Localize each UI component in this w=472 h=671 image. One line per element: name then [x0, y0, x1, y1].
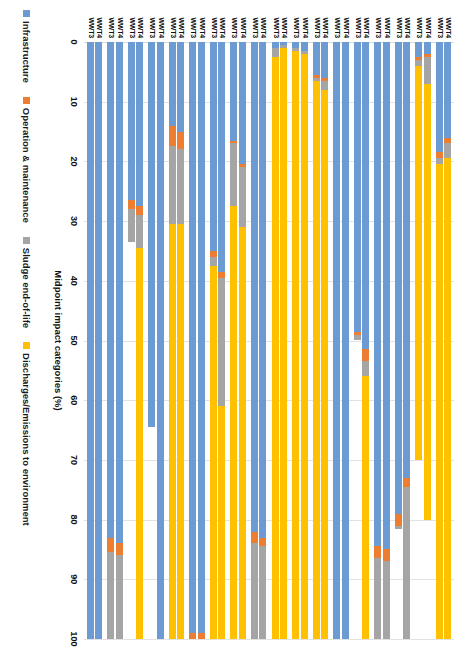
series-tick-label: WWT4: [363, 4, 370, 38]
bar-segment: [280, 48, 287, 639]
bar-segment: [251, 543, 258, 639]
series-tick-label: WWT3: [170, 4, 177, 38]
series-tick-label: WWT3: [314, 4, 321, 38]
series-tick-label: WWT4: [322, 4, 329, 38]
value-tick-label: 100: [69, 631, 79, 646]
stacked-bar: [218, 42, 225, 639]
bar-segment: [424, 57, 431, 84]
legend-item-label: Infrastructure: [21, 21, 32, 83]
bar-segment: [198, 42, 205, 633]
bar-segment: [383, 42, 390, 549]
bar-segment: [342, 42, 349, 639]
bar-segment: [239, 227, 246, 639]
bar-segment: [239, 42, 246, 164]
stacked-bar: [321, 42, 328, 639]
bar-segment: [259, 546, 266, 639]
plot-area: [84, 42, 454, 639]
stacked-bar: [395, 42, 402, 639]
stacked-bar: [403, 42, 410, 639]
series-tick-label: WWT4: [343, 4, 350, 38]
value-tick-label: 90: [69, 574, 79, 584]
series-tick-label: WWT4: [445, 4, 452, 38]
bar-segment: [177, 132, 184, 150]
series-tick-label: WWT4: [117, 4, 124, 38]
bar-segment: [198, 633, 205, 639]
value-tick-label: 70: [69, 455, 79, 465]
stacked-bar: [128, 42, 135, 639]
bar-segment: [169, 146, 176, 224]
chart-legend: InfrastructureOperation & maintenanceSlu…: [21, 10, 32, 526]
stacked-bar: [280, 42, 287, 639]
bar-segment: [374, 546, 381, 558]
series-tick-label: WWT4: [302, 4, 309, 38]
square-swatch: [23, 97, 30, 104]
stacked-bar: [148, 42, 155, 639]
series-tick-label: WWT3: [293, 4, 300, 38]
bar-segment: [95, 42, 102, 639]
legend-item: Sludge end-of-life: [21, 237, 32, 328]
series-tick-label: WWT4: [158, 4, 165, 38]
bar-segment: [116, 555, 123, 639]
stacked-bar: [107, 42, 114, 639]
stacked-bar: [87, 42, 94, 639]
bar-segment: [189, 42, 196, 633]
legend-item: Operation & maintenance: [21, 97, 32, 223]
chart-figure: InfrastructureOperation & maintenanceSlu…: [0, 0, 472, 671]
bar-segment: [362, 42, 369, 349]
legend-item-label: Discharges/Emissions to environment: [21, 353, 32, 526]
bar-segment: [374, 558, 381, 639]
bar-segment: [136, 215, 143, 248]
value-tick-label: 10: [69, 97, 79, 107]
value-tick-label: 40: [69, 276, 79, 286]
series-tick-label: WWT3: [190, 4, 197, 38]
bar-segment: [251, 42, 258, 532]
bar-segment: [230, 42, 237, 141]
bar-segment: [107, 538, 114, 553]
stacked-bar: [198, 42, 205, 639]
stacked-bar: [444, 42, 451, 639]
bar-segment: [177, 149, 184, 224]
series-tick-label: WWT4: [96, 4, 103, 38]
bar-segment: [395, 526, 402, 529]
stacked-bar: [230, 42, 237, 639]
bar-segment: [383, 561, 390, 639]
series-tick-label: WWT3: [231, 4, 238, 38]
bar-segment: [362, 361, 369, 376]
stacked-bar: [424, 42, 431, 639]
bar-segment: [230, 143, 237, 206]
bar-segment: [403, 487, 410, 639]
bar-segment: [436, 42, 443, 152]
bar-segment: [136, 42, 143, 206]
stacked-bar: [313, 42, 320, 639]
bar-segment: [210, 257, 217, 266]
bar-segment: [321, 42, 328, 78]
stacked-bar: [157, 42, 164, 639]
bar-segment: [321, 90, 328, 639]
series-tick-label: WWT3: [108, 4, 115, 38]
bar-segment: [259, 42, 266, 538]
bar-segment: [116, 543, 123, 555]
stacked-bar: [210, 42, 217, 639]
legend-item: Discharges/Emissions to environment: [21, 342, 32, 526]
bar-segment: [374, 42, 381, 546]
series-tick-label: WWT4: [137, 4, 144, 38]
value-tick-label: 0: [69, 39, 79, 44]
bar-segment: [354, 42, 361, 332]
stacked-bar: [436, 42, 443, 639]
legend-item-label: Sludge end-of-life: [21, 248, 32, 328]
bar-segment: [87, 42, 94, 639]
bar-segment: [136, 248, 143, 639]
stacked-bar: [116, 42, 123, 639]
series-tick-label: WWT3: [375, 4, 382, 38]
bar-segment: [301, 42, 308, 51]
stacked-bar: [292, 42, 299, 639]
stacked-bar: [415, 42, 422, 639]
series-tick-label: WWT4: [240, 4, 247, 38]
bar-segment: [169, 126, 176, 147]
bar-segment: [116, 42, 123, 543]
bar-segment: [107, 552, 114, 639]
stacked-bar: [251, 42, 258, 639]
stacked-bar: [374, 42, 381, 639]
value-tick-label: 80: [69, 515, 79, 525]
series-tick-label: WWT3: [437, 4, 444, 38]
